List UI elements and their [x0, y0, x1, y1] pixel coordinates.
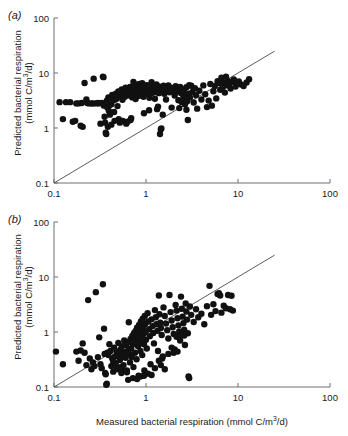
data-point [124, 369, 130, 375]
data-point [164, 327, 170, 333]
data-point [176, 105, 182, 111]
data-point [169, 324, 175, 330]
data-point [91, 363, 97, 369]
data-point [168, 104, 174, 110]
data-point [210, 301, 216, 307]
data-point [157, 319, 163, 325]
data-point [144, 310, 150, 316]
data-point [201, 321, 207, 327]
data-point [101, 325, 107, 331]
y-tick-label: 10 [38, 272, 49, 283]
data-point [81, 80, 87, 86]
data-point [162, 366, 168, 372]
data-point [103, 131, 109, 137]
data-point [108, 121, 114, 127]
data-point [110, 358, 116, 364]
data-point [178, 293, 184, 299]
data-point [204, 303, 210, 309]
data-point [213, 95, 219, 101]
data-point [117, 119, 123, 125]
x-tick-label: 0.1 [47, 392, 60, 403]
data-point [100, 74, 106, 80]
panel-a: (a) Predicted bacterial respiration (mmo… [0, 0, 348, 212]
y-tick-label: 10 [38, 68, 49, 79]
data-point [160, 111, 166, 117]
data-point [188, 312, 194, 318]
data-point [75, 358, 81, 364]
panel-b: (b) Predicted bacterial respiration (mmo… [0, 210, 348, 436]
data-point [90, 75, 96, 81]
data-point [193, 306, 199, 312]
y-tick-label: 1 [44, 123, 49, 134]
data-point [93, 289, 99, 295]
y-tick-label: 0.1 [36, 382, 49, 393]
x-tick-label: 100 [322, 188, 338, 199]
data-point [202, 91, 208, 97]
data-point [209, 102, 215, 108]
data-point [60, 116, 66, 122]
data-point [200, 82, 206, 88]
data-point [85, 297, 91, 303]
data-point [154, 106, 160, 112]
panel-b-xlabel: Measured bacterial respiration (mmol C/m… [54, 416, 330, 427]
data-point [198, 311, 204, 317]
data-point [228, 293, 234, 299]
data-point [152, 365, 158, 371]
data-point [212, 308, 218, 314]
data-point [187, 303, 193, 309]
data-point [183, 107, 189, 113]
data-point [126, 319, 132, 325]
data-point [191, 319, 197, 325]
data-point [158, 325, 164, 331]
data-point [81, 350, 87, 356]
data-point [146, 107, 152, 113]
data-point [206, 283, 212, 289]
x-tick-label: 1 [143, 392, 148, 403]
data-point [60, 361, 66, 367]
data-point [103, 371, 109, 377]
x-tick-label: 10 [233, 392, 244, 403]
data-point [222, 89, 228, 95]
x-tick-label: 1 [143, 188, 148, 199]
data-point [163, 320, 169, 326]
data-point [104, 380, 110, 386]
y-tick-label: 0.1 [36, 178, 49, 189]
data-point [96, 334, 102, 340]
data-point [166, 292, 172, 298]
data-point [67, 99, 73, 105]
data-point [53, 348, 59, 354]
data-point [181, 332, 187, 338]
data-point [144, 345, 150, 351]
data-point [160, 304, 166, 310]
data-point [111, 109, 117, 115]
data-point [95, 354, 101, 360]
data-point [198, 96, 204, 102]
figure-container: (a) Predicted bacterial respiration (mmo… [0, 0, 348, 436]
data-point [196, 88, 202, 94]
data-point [100, 281, 106, 287]
y-tick-label: 100 [33, 13, 49, 24]
data-point [167, 309, 173, 315]
data-point [156, 292, 162, 298]
data-point [186, 375, 192, 381]
y-tick-label: 1 [44, 327, 49, 338]
data-point [139, 352, 145, 358]
panel-a-plot: 0.10.1111010100100 [0, 0, 348, 212]
data-point [130, 364, 136, 370]
data-point [114, 103, 120, 109]
data-point [168, 317, 174, 323]
data-point [56, 99, 62, 105]
data-point [79, 124, 85, 130]
data-point [165, 351, 171, 357]
x-tick-label: 0.1 [47, 188, 60, 199]
data-point [151, 340, 157, 346]
data-point [72, 118, 78, 124]
data-point [79, 340, 85, 346]
data-point [163, 96, 169, 102]
data-point [127, 117, 133, 123]
data-point [148, 372, 154, 378]
data-point [194, 105, 200, 111]
data-point [165, 335, 171, 341]
data-point [230, 307, 236, 313]
data-point [83, 362, 89, 368]
